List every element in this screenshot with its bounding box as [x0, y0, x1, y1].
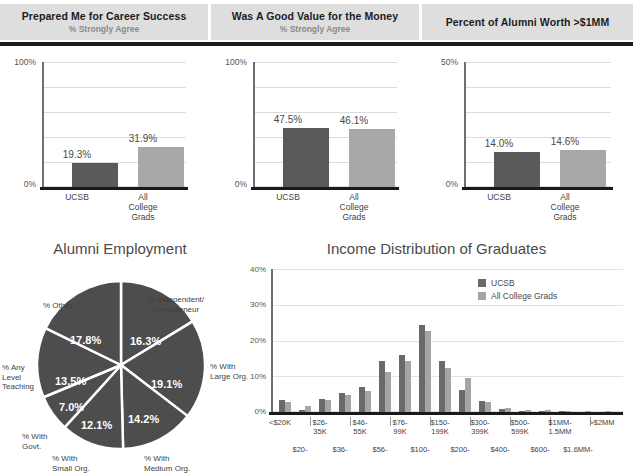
x-label-top: >$2MM [572, 418, 632, 427]
pie-value-other: 17.8% [70, 334, 101, 346]
income-distribution-chart: UCSB All College Grads 40% 30% 20% 10% 0… [240, 262, 633, 475]
bar-ucsb [283, 128, 329, 187]
y-tick-bottom: 0% [0, 179, 36, 189]
header-banner-career-success: Prepared Me for Career Success % Strongl… [0, 4, 208, 40]
bar-all-college-grads [285, 402, 291, 412]
legend-item-all-college-grads: All College Grads [478, 291, 557, 301]
legend-swatch-icon [478, 292, 486, 300]
bar-all-college-grads [405, 361, 411, 413]
bar-chart-career-success: 100% 0% 19.3% 31.9% UCSB AllCollegeGrads [0, 52, 208, 227]
bar-all-college-grads [560, 150, 606, 187]
pie-value-medium-org: 14.2% [128, 413, 159, 425]
y-tick-top: 100% [0, 57, 36, 67]
pie-value-any-level-teaching: 13.5% [55, 375, 86, 387]
x-label-all-college-grads: AllCollegeGrads [113, 192, 173, 222]
plot-area [464, 62, 611, 187]
bar-all-college-grads [325, 400, 331, 413]
y-tick-0: 0% [240, 407, 266, 416]
bar-value-ucsb: 14.0% [469, 138, 529, 149]
bar-chart-alumni-worth: 50% 0% 14.0% 14.6% UCSB AllCollegeGrads [422, 52, 633, 227]
x-label-ucsb: UCSB [47, 192, 107, 202]
bar-all-college-grads [425, 331, 431, 413]
pie-label-govt: % WithGovt. [22, 432, 47, 451]
y-tick-bottom: 0% [211, 179, 247, 189]
x-label-ucsb: UCSB [469, 192, 529, 202]
pie-label-small-org: % WithSmall Org. [52, 454, 90, 473]
x-label-bottom: $1.6MM- [548, 445, 608, 454]
header-banner-row: Prepared Me for Career Success % Strongl… [0, 4, 633, 40]
bar-all-college-grads [345, 395, 351, 412]
header-banner-good-value: Was A Good Value for the Money % Strongl… [211, 4, 419, 40]
header-title: Percent of Alumni Worth >$1MM [446, 16, 610, 29]
bar-all-college-grads [349, 129, 395, 187]
header-title: Was A Good Value for the Money [232, 10, 398, 23]
bar-value-all-college-grads: 46.1% [324, 115, 384, 126]
plot-area [42, 62, 186, 187]
bar-value-ucsb: 19.3% [47, 149, 107, 160]
y-tick-top: 50% [422, 57, 458, 67]
bar-value-ucsb: 47.5% [258, 114, 318, 125]
bar-all-college-grads [465, 378, 471, 412]
income-chart-legend: UCSB All College Grads [478, 278, 557, 304]
header-subtitle: % Strongly Agree [280, 23, 351, 35]
header-subtitle: % Strongly Agree [69, 23, 140, 35]
y-tick-20: 20% [240, 336, 266, 345]
x-label-all-college-grads: AllCollegeGrads [535, 192, 595, 222]
x-axis-line [40, 187, 188, 190]
bar-chart-good-value: 100% 0% 47.5% 46.1% UCSB AllCollegeGrads [211, 52, 419, 227]
bar-all-college-grads [138, 147, 184, 187]
y-tick-bottom: 0% [422, 179, 458, 189]
header-divider-rule [0, 42, 633, 46]
bar-ucsb [72, 163, 118, 187]
bar-all-college-grads [445, 368, 451, 412]
plot-area: UCSB All College Grads [271, 269, 623, 412]
y-tick-top: 100% [211, 57, 247, 67]
income-chart-title: Income Distribution of Graduates [240, 240, 633, 257]
x-label-all-college-grads: AllCollegeGrads [324, 192, 384, 222]
pie-label-any-level-teaching: % AnyLevelTeaching [2, 363, 34, 392]
bar-value-all-college-grads: 14.6% [535, 136, 595, 147]
bar-ucsb [494, 152, 540, 187]
header-banner-alumni-worth: Percent of Alumni Worth >$1MM [422, 4, 633, 40]
pie-label-independent-entrepreneur: % Independent/ Entrepreneur [148, 295, 204, 314]
y-tick-30: 30% [240, 300, 266, 309]
y-tick-40: 40% [240, 265, 266, 274]
pie-value-govt: 7.0% [59, 401, 84, 413]
bar-all-college-grads [385, 372, 391, 412]
pie-value-independent-entrepreneur: 16.3% [130, 335, 161, 347]
x-axis-line [462, 187, 613, 190]
legend-item-ucsb: UCSB [478, 278, 557, 288]
x-axis-line [251, 187, 399, 190]
header-title: Prepared Me for Career Success [22, 10, 187, 23]
pie-label-other: % Other [43, 301, 72, 311]
pie-value-small-org: 12.1% [81, 419, 112, 431]
pie-chart-title: Alumni Employment [0, 240, 240, 257]
bar-all-college-grads [365, 391, 371, 412]
y-tick-10: 10% [240, 372, 266, 381]
legend-label: All College Grads [491, 291, 557, 301]
legend-swatch-icon [478, 279, 486, 287]
bar-value-all-college-grads: 31.9% [113, 133, 173, 144]
bar-all-college-grads [485, 402, 491, 412]
x-axis-line [269, 412, 623, 415]
legend-label: UCSB [491, 278, 515, 288]
x-label-ucsb: UCSB [258, 192, 318, 202]
pie-label-medium-org: % WithMedium Org. [144, 454, 190, 473]
pie-value-large-org: 19.1% [151, 378, 182, 390]
pie-chart-alumni-employment: 16.3% 19.1% 14.2% 12.1% 7.0% 13.5% 17.8%… [0, 262, 240, 475]
